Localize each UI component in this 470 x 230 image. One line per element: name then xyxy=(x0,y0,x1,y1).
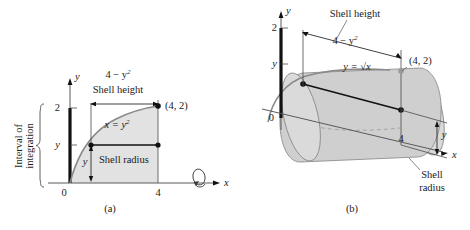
x-axis-arrow-b xyxy=(441,152,448,157)
y-axis-arrow-a xyxy=(68,78,73,85)
shell-height-value-exponent-a: 2 xyxy=(127,68,131,76)
x-axis-label-a: x xyxy=(223,177,229,188)
origin-label-a: 0 xyxy=(61,187,66,198)
y-tick-label-y-b: y xyxy=(271,58,277,69)
interval-label-line1-a: Interval of xyxy=(13,123,24,168)
y-axis-arrow-b xyxy=(279,11,284,18)
shell-height-value-exponent-b: 2 xyxy=(354,34,358,42)
shell-height-value-a: 4 − y2 xyxy=(105,68,131,80)
y-tick-label-y-a: y xyxy=(54,139,60,150)
interval-label-line2-a: integration xyxy=(24,123,35,169)
shell-radius-right-endpoint-a xyxy=(155,142,160,147)
shell-radius-var-b: y xyxy=(441,129,447,140)
panel-a-caption: (a) xyxy=(104,203,116,215)
shell-height-label-b: Shell height xyxy=(330,8,381,19)
curve-equation-label-b: y = √x xyxy=(342,61,371,72)
origin-label-b: 0 xyxy=(269,112,274,123)
point-4-2-marker-a xyxy=(155,103,161,109)
point-4-2-label-a: (4, 2) xyxy=(165,100,188,112)
y-tick-label-2-a: 2 xyxy=(55,102,60,113)
shell-radius-label-a: Shell radius xyxy=(99,154,149,165)
point-4-2-marker-b xyxy=(398,68,404,74)
integration-brace-a xyxy=(36,104,44,187)
point-4-2-label-b: (4, 2) xyxy=(409,55,432,67)
y-axis-label-a: y xyxy=(74,71,80,82)
revolution-arrow-icon xyxy=(191,168,206,187)
y-axis-label-b: y xyxy=(285,5,291,16)
shell-radius-var-a: y xyxy=(82,156,88,167)
panel-b: y 2 y 0 x Shel xyxy=(262,5,457,215)
y-tick-label-2-b: 2 xyxy=(272,22,277,33)
curve-equation-radical-b: √x xyxy=(360,61,371,72)
curve-equation-prefix-b: y = xyxy=(342,61,360,72)
shell-height-value-prefix-b: 4 − y xyxy=(332,35,354,46)
figure-root: y x 2 y 0 4 Interval of integration xyxy=(0,0,470,230)
panel-b-caption: (b) xyxy=(346,203,359,215)
x-tick-label-4-a: 4 xyxy=(155,187,161,198)
shell-method-figure: y x 2 y 0 4 Interval of integration xyxy=(0,0,470,230)
shell-height-label-a: Shell height xyxy=(93,84,144,95)
panel-a: y x 2 y 0 4 Interval of integration xyxy=(13,68,229,215)
shell-height-value-prefix-a: 4 − y xyxy=(105,69,127,80)
shell-radius-leader-b xyxy=(409,158,420,170)
curve-equation-exponent-a: 2 xyxy=(126,118,130,126)
shell-radius-label-line2-b: radius xyxy=(419,182,445,193)
shell-height-value-b: 4 − y2 xyxy=(332,34,358,46)
x-axis-label-b: x xyxy=(451,149,457,160)
curve-equation-prefix-a: x = y xyxy=(103,119,126,130)
x-axis-arrow-a xyxy=(213,181,220,186)
shell-radius-label-line1-b: Shell xyxy=(421,169,443,180)
x-tick-label-4-b: 4 xyxy=(398,133,404,144)
